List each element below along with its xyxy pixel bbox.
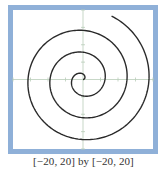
window-caption: [−20, 20] by [−20, 20] [0,155,167,167]
spiral-curve [28,16,149,140]
spiral-plot [0,0,167,155]
